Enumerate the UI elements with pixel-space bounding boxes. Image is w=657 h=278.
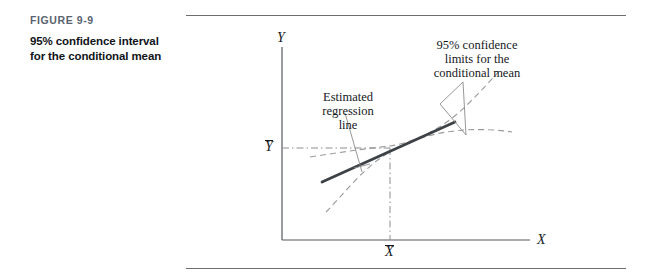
chart-plot-area: Y X Y X Estimated regression line 95% co… bbox=[250, 20, 610, 260]
figure-number: FIGURE 9-9 bbox=[30, 14, 180, 26]
confidence-limits-annotation: 95% confidence limits for the conditiona… bbox=[418, 38, 536, 80]
x-mean-overbar bbox=[385, 245, 394, 246]
x-mean-tick-label: X bbox=[385, 244, 394, 260]
y-mean-overbar bbox=[265, 140, 273, 141]
estimated-regression-line-annotation: Estimated regression line bbox=[305, 90, 391, 132]
figure-caption-line-2: for the conditional mean bbox=[30, 49, 180, 64]
estimated-annot-line-3: line bbox=[305, 118, 391, 132]
figure-caption-block: FIGURE 9-9 95% confidence interval for t… bbox=[30, 14, 180, 64]
y-mean-tick-label: Y bbox=[265, 139, 273, 155]
lower-confidence-limit-curve bbox=[326, 130, 512, 212]
y-mean-tick-letter: Y bbox=[265, 139, 273, 154]
estimated-annot-line-1: Estimated bbox=[305, 90, 391, 104]
confidence-annot-line-3: conditional mean bbox=[418, 66, 536, 80]
estimated-annot-line-2: regression bbox=[305, 104, 391, 118]
confidence-annot-line-1: 95% confidence bbox=[418, 38, 536, 52]
divider-bottom bbox=[186, 268, 626, 269]
divider-top bbox=[186, 15, 626, 16]
confidence-label-leader-upper bbox=[440, 82, 463, 104]
x-mean-tick-letter: X bbox=[385, 244, 394, 259]
y-axis-label: Y bbox=[277, 30, 285, 46]
confidence-annot-line-2: limits for the bbox=[418, 52, 536, 66]
confidence-label-leader-base bbox=[440, 104, 466, 135]
x-axis-label: X bbox=[537, 232, 546, 248]
figure-page: FIGURE 9-9 95% confidence interval for t… bbox=[0, 0, 657, 278]
figure-caption-line-1: 95% confidence interval bbox=[30, 34, 180, 49]
